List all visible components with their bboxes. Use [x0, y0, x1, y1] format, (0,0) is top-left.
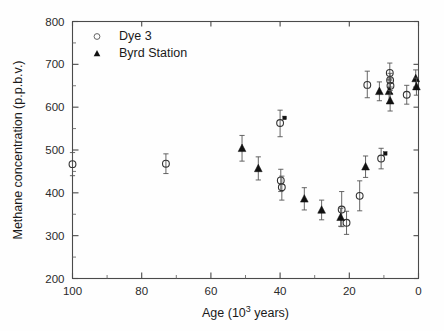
- marker-filled-triangle: [300, 195, 308, 202]
- datapoint: [362, 156, 370, 177]
- annotation-asterisk-marker-0: [283, 116, 287, 120]
- x-axis-title-pre: Age (10: [202, 306, 246, 320]
- datapoint: [338, 192, 345, 227]
- chart-legend: Dye 3Byrd Station: [94, 29, 187, 60]
- datapoint: [378, 148, 385, 169]
- marker-filled-triangle: [413, 82, 421, 89]
- datapoint: [403, 85, 410, 104]
- x-ticklabel-1: 80: [135, 285, 148, 297]
- axes-box: [73, 22, 419, 279]
- annotation-layer: [283, 116, 387, 155]
- x-axis-ticks: [73, 22, 419, 279]
- marker-filled-triangle: [386, 97, 394, 104]
- datapoint: [376, 82, 384, 101]
- y-ticklabel-1: 300: [45, 230, 64, 242]
- y-ticklabel-0: 200: [45, 273, 64, 285]
- marker-filled-triangle: [254, 164, 262, 171]
- scatter-plot-canvas: 100806040200 200300400500600700800 Dye 3…: [0, 0, 444, 331]
- x-axis-tick-labels: 100806040200: [63, 285, 422, 297]
- y-ticklabel-5: 700: [45, 58, 64, 70]
- x-ticklabel-2: 60: [205, 285, 218, 297]
- marker-filled-triangle: [238, 144, 246, 151]
- marker-filled-triangle: [318, 206, 326, 213]
- y-axis-title: Methane concentration (p.p.b.v.): [11, 60, 25, 239]
- x-axis-title: Age (103 years): [202, 304, 289, 320]
- data-series-layer: [69, 63, 420, 234]
- datapoint: [277, 110, 284, 137]
- y-axis-ticks: [73, 22, 419, 279]
- x-ticklabel-5: 0: [415, 285, 421, 297]
- datapoint: [69, 153, 76, 176]
- y-ticklabel-4: 600: [45, 101, 64, 113]
- datapoint: [300, 188, 308, 210]
- datapoint: [238, 135, 246, 161]
- marker-filled-triangle: [362, 163, 370, 170]
- legend-marker-open-circle: [94, 34, 100, 40]
- x-ticklabel-3: 40: [274, 285, 287, 297]
- legend-label-1: Byrd Station: [119, 46, 187, 60]
- x-axis-title-post: years): [251, 306, 289, 320]
- y-ticklabel-2: 400: [45, 187, 64, 199]
- methane-concentration-figure: 100806040200 200300400500600700800 Dye 3…: [0, 0, 444, 331]
- x-ticklabel-4: 20: [343, 285, 356, 297]
- datapoint: [318, 200, 326, 220]
- y-ticklabel-6: 800: [45, 16, 64, 28]
- datapoint: [356, 181, 363, 211]
- datapoint: [364, 71, 371, 98]
- x-ticklabel-0: 100: [63, 285, 82, 297]
- datapoint: [343, 211, 350, 234]
- datapoint: [254, 157, 262, 180]
- legend-marker-filled-triangle: [94, 50, 101, 56]
- marker-filled-triangle: [337, 213, 345, 220]
- y-ticklabel-3: 500: [45, 144, 64, 156]
- annotation-asterisk-marker-1: [383, 152, 387, 156]
- y-axis-tick-labels: 200300400500600700800: [45, 16, 64, 285]
- datapoint: [163, 154, 170, 174]
- marker-filled-triangle: [376, 87, 384, 94]
- legend-label-0: Dye 3: [119, 29, 152, 43]
- plot-frame: [73, 22, 419, 279]
